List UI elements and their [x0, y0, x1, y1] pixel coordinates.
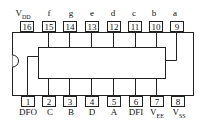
pin-8-label: VSS — [167, 107, 191, 121]
pin-2: 2 — [42, 96, 56, 107]
notch-icon — [13, 55, 19, 67]
pin-12: 12 — [107, 21, 121, 32]
pin-16-label: VDD — [11, 8, 35, 22]
pin-7: 7 — [150, 96, 164, 107]
pin-3: 3 — [63, 96, 77, 107]
pin-14: 14 — [63, 21, 77, 32]
pin-7-label: VEE — [145, 107, 169, 121]
pin-9: 9 — [170, 21, 184, 32]
pin-10: 10 — [149, 21, 163, 32]
pin-8: 8 — [171, 96, 185, 107]
pin-15: 15 — [42, 21, 56, 32]
ic-pinout-diagram: VDD 16 f 15 g 14 e 13 d 12 c 11 b 10 a 9… — [0, 0, 208, 127]
pin-5: 5 — [107, 96, 121, 107]
pin-5-label: A — [102, 107, 126, 117]
pin-9-label: a — [163, 8, 187, 18]
pin-1: 1 — [21, 96, 35, 107]
pin-6: 6 — [129, 96, 143, 107]
pin-15-label: f — [37, 8, 61, 18]
pin-4-label: D — [80, 107, 104, 117]
pin-4: 4 — [85, 96, 99, 107]
pin-13: 13 — [85, 21, 99, 32]
pin-1-label: DFO — [16, 107, 40, 117]
pin-11: 11 — [128, 21, 142, 32]
pin-16: 16 — [20, 21, 34, 32]
